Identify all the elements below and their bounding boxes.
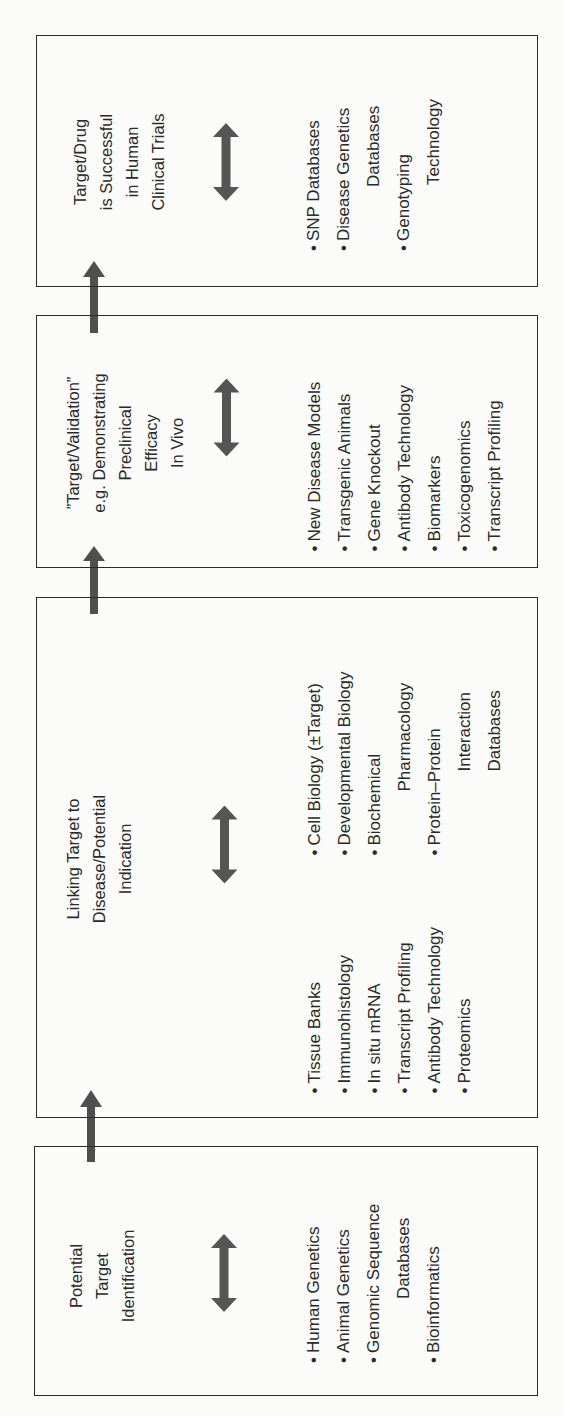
stage-title: Potential Target Identification <box>63 1151 141 1401</box>
list-item: •Disease Genetics <box>329 99 359 251</box>
stage-title-line: Linking Target to <box>59 598 85 1119</box>
stage-title-line: Identification <box>115 1151 141 1401</box>
list-item: •Antibody Technology <box>419 926 449 1093</box>
stage-title-line: ”Target/Validation” <box>59 316 85 569</box>
stage-box-linking-target: Linking Target to Disease/Potential Indi… <box>36 597 538 1118</box>
double-arrow-icon <box>211 805 237 883</box>
list-item-continuation: Technology <box>419 99 449 251</box>
stage-title-line: in Human <box>119 36 145 288</box>
stage-title-line: is Successful <box>93 36 119 288</box>
stage-title-line: Target <box>89 1151 115 1401</box>
stage-title-line: Disease/Potential <box>85 598 111 1119</box>
list-item-continuation: Databases <box>359 99 389 251</box>
stage-title-line: Clinical Trials <box>145 36 171 288</box>
list-item: •Genomic Sequence <box>359 1204 389 1363</box>
list-item: •Gene Knockout <box>359 381 389 551</box>
list-item-continuation: Databases <box>389 1204 419 1363</box>
stage-title-line: Potential <box>63 1151 89 1401</box>
stage-box-target-validation: ”Target/Validation” e.g. Demonstrating P… <box>36 315 538 568</box>
list-item: •Protein–Protein <box>419 671 449 855</box>
list-item: •Animal Genetics <box>329 1204 359 1363</box>
technology-list: •SNP Databases •Disease Genetics Databas… <box>299 99 449 251</box>
stage-title-line: Target/Drug <box>67 36 93 288</box>
list-item: •SNP Databases <box>299 99 329 251</box>
list-item: •Genotyping <box>389 99 419 251</box>
stage-title: Target/Drug is Successful in Human Clini… <box>67 36 171 288</box>
list-item: •Toxicogenomics <box>449 381 479 551</box>
list-item: •Transcript Profiling <box>389 926 419 1093</box>
list-item: •Biochemical <box>359 671 389 855</box>
list-item-continuation: Pharmacology <box>389 671 419 855</box>
technology-list-left: •Tissue Banks •Immunohistology •In situ … <box>299 926 479 1093</box>
stage-title-line: Indication <box>111 598 137 1119</box>
double-arrow-icon <box>211 1234 237 1312</box>
stage-title-line: Efficacy <box>137 316 163 569</box>
list-item-continuation: Databases <box>479 671 509 855</box>
list-item: •Proteomics <box>449 926 479 1093</box>
list-item: •Bioinformatics <box>419 1204 449 1363</box>
technology-list: •New Disease Models •Transgenic Animals … <box>299 381 509 551</box>
list-item: •Transcript Profiling <box>479 381 509 551</box>
technology-list: •Human Genetics •Animal Genetics •Genomi… <box>299 1204 449 1363</box>
stage-box-clinical-trials: Target/Drug is Successful in Human Clini… <box>36 35 538 287</box>
list-item: •Tissue Banks <box>299 926 329 1093</box>
technology-list-right: •Cell Biology (±Target) •Developmental B… <box>299 671 509 855</box>
list-item: •Developmental Biology <box>329 671 359 855</box>
stage-title: Linking Target to Disease/Potential Indi… <box>59 598 137 1119</box>
double-arrow-icon <box>213 378 239 456</box>
stage-title: ”Target/Validation” e.g. Demonstrating P… <box>59 316 189 569</box>
list-item: •Cell Biology (±Target) <box>299 671 329 855</box>
list-item: •New Disease Models <box>299 381 329 551</box>
stage-title-line: e.g. Demonstrating <box>85 316 111 569</box>
double-arrow-icon <box>213 123 239 201</box>
list-item: •In situ mRNA <box>359 926 389 1093</box>
stage-box-target-identification: Potential Target Identification •Human G… <box>34 1146 538 1396</box>
list-item: •Immunohistology <box>329 926 359 1093</box>
list-item: •Transgenic Animals <box>329 381 359 551</box>
list-item: •Human Genetics <box>299 1204 329 1363</box>
stage-title-line: Preclinical <box>111 316 137 569</box>
list-item: •Antibody Technology <box>389 381 419 551</box>
stage-title-line: In Vivo <box>163 316 189 569</box>
list-item: •Biomarkers <box>419 381 449 551</box>
list-item-continuation: Interaction <box>449 671 479 855</box>
